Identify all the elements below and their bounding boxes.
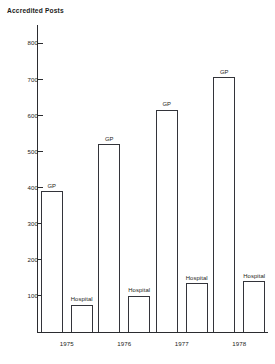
plot-area: 100200300400500600700800 GPHospitalGPHos… [0, 0, 275, 364]
y-axis-tick-label: 100 [28, 292, 38, 299]
bar-gp-1977 [156, 110, 178, 332]
bar-gp-1975 [41, 191, 63, 332]
bar-hospital-1976 [128, 296, 150, 332]
bar-hospital-1978 [243, 281, 265, 332]
y-axis-tick-mark [38, 151, 43, 152]
y-axis-tick-mark [38, 43, 43, 44]
y-axis-tick-label: 200 [28, 256, 38, 263]
x-axis-label-1975: 1975 [47, 340, 87, 347]
bar-label-gp-1977: GP [142, 101, 192, 107]
bar-label-gp-1978: GP [199, 69, 249, 75]
bar-hospital-1975 [71, 305, 93, 332]
bar-hospital-1977 [186, 283, 208, 332]
bar-gp-1976 [98, 144, 120, 332]
y-axis-line [37, 25, 38, 333]
bar-gp-1978 [213, 77, 235, 332]
y-axis-tick-label: 600 [28, 112, 38, 119]
x-axis-label-1977: 1977 [162, 340, 202, 347]
x-axis-label-1978: 1978 [219, 340, 259, 347]
y-axis-tick-label: 800 [28, 39, 38, 46]
x-axis-line [37, 332, 268, 333]
bar-label-gp-1976: GP [84, 136, 134, 142]
chart-container: Accredited Posts 10020030040050060070080… [0, 0, 275, 364]
y-axis-tick-mark [38, 79, 43, 80]
bar-label-gp-1975: GP [27, 183, 77, 189]
y-axis-tick-label: 700 [28, 76, 38, 83]
y-axis-tick-mark [38, 115, 43, 116]
bar-label-hospital-1978: Hospital [229, 273, 275, 279]
x-axis-label-1976: 1976 [104, 340, 144, 347]
y-axis-tick-label: 300 [28, 220, 38, 227]
y-axis-tick-label: 500 [28, 148, 38, 155]
